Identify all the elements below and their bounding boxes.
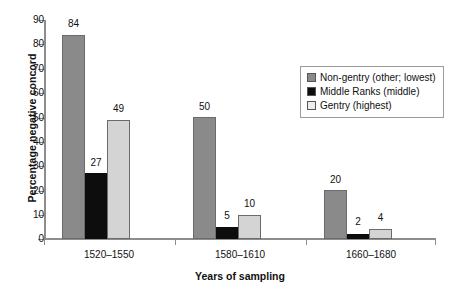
bar-1520-1550-non-gentry xyxy=(62,35,85,239)
legend-item-non-gentry: Non-gentry (other; lowest) xyxy=(307,71,437,84)
bar-label-1580-1610-non-gentry: 50 xyxy=(199,101,210,112)
bar-1580-1610-non-gentry xyxy=(193,117,216,239)
bar-label-1520-1550-middle-ranks: 27 xyxy=(90,157,101,168)
legend-item-middle-ranks: Middle Ranks (middle) xyxy=(307,85,437,98)
x-tick-1 xyxy=(175,240,176,245)
bar-label-1660-1680-gentry: 4 xyxy=(378,212,384,223)
legend-swatch-icon-non-gentry xyxy=(307,73,316,82)
bar-label-1660-1680-non-gentry: 20 xyxy=(330,174,341,185)
bar-chart-figure: 90 80 70 60 50 40 30 20 10 0 1520–1550 xyxy=(0,0,457,293)
bar-1660-1680-non-gentry xyxy=(324,190,347,239)
y-axis-line xyxy=(44,20,46,240)
y-tick-label-90: 90 xyxy=(18,15,44,25)
bar-1520-1550-gentry xyxy=(107,120,130,239)
legend-swatch-icon-gentry xyxy=(307,101,316,110)
x-tick-2 xyxy=(306,240,307,245)
y-tick-90: 90 xyxy=(0,20,44,21)
y-axis-title: Percentage negative concord xyxy=(26,33,38,223)
x-tick-label-1580-1610: 1580–1610 xyxy=(215,249,265,260)
bar-label-1580-1610-gentry: 10 xyxy=(244,198,255,209)
x-tick-start xyxy=(44,240,45,245)
legend-label-non-gentry: Non-gentry (other; lowest) xyxy=(320,72,436,83)
legend-label-gentry: Gentry (highest) xyxy=(320,100,392,111)
bar-1660-1680-gentry xyxy=(369,229,392,239)
bar-label-1520-1550-non-gentry: 84 xyxy=(68,18,79,29)
chart-legend: Non-gentry (other; lowest) Middle Ranks … xyxy=(300,66,444,118)
bar-label-1520-1550-gentry: 49 xyxy=(113,103,124,114)
x-tick-label-1660-1680: 1660–1680 xyxy=(346,249,396,260)
legend-item-gentry: Gentry (highest) xyxy=(307,99,437,112)
y-tick-0: 0 xyxy=(0,239,44,240)
x-tick-end xyxy=(435,240,436,245)
x-axis-title: Years of sampling xyxy=(44,270,436,282)
legend-swatch-icon-middle-ranks xyxy=(307,87,316,96)
y-tick-label-0: 0 xyxy=(18,234,44,244)
bar-label-1580-1610-middle-ranks: 5 xyxy=(224,210,230,221)
bar-label-1660-1680-middle-ranks: 2 xyxy=(355,216,361,227)
bar-1660-1680-middle-ranks xyxy=(347,234,369,239)
legend-label-middle-ranks: Middle Ranks (middle) xyxy=(320,86,419,97)
x-tick-label-1520-1550: 1520–1550 xyxy=(84,249,134,260)
bar-1520-1550-middle-ranks xyxy=(85,173,107,239)
bar-1580-1610-middle-ranks xyxy=(216,227,238,239)
bar-1580-1610-gentry xyxy=(238,215,261,239)
